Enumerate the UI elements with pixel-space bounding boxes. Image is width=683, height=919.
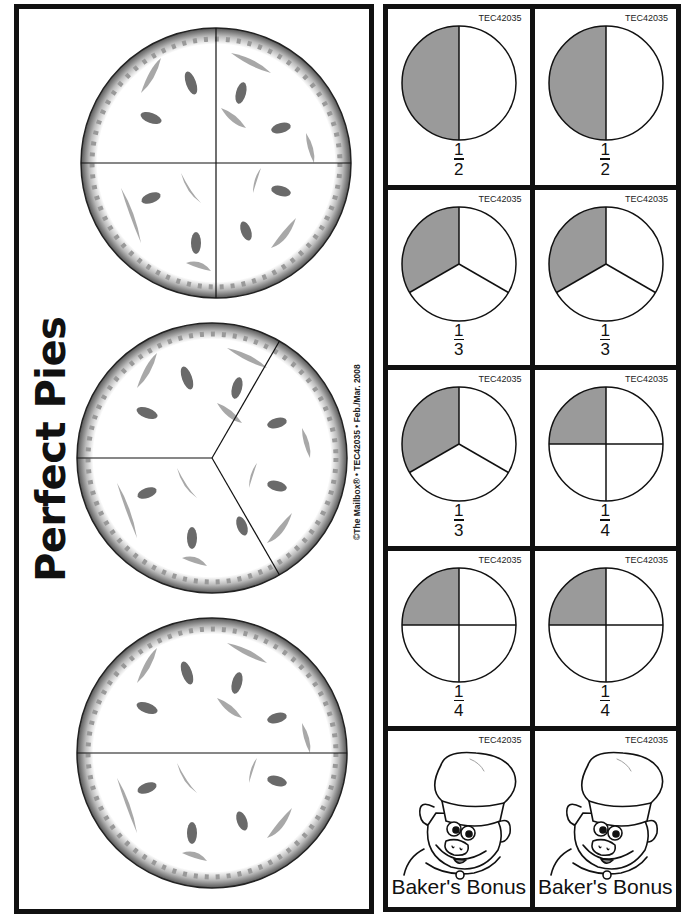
fraction-card-one-fourth[interactable]: TEC42035 14 xyxy=(388,551,530,727)
big-pie-thirds[interactable] xyxy=(71,317,353,599)
pig-chef-icon xyxy=(396,745,526,880)
fraction-label: 13 xyxy=(388,503,530,538)
card-code: TEC42035 xyxy=(478,374,521,384)
copyright-credit: ©The Mailbox® • TEC42035 • Feb./Mar. 200… xyxy=(352,364,362,540)
fraction-card-one-half[interactable]: TEC42035 12 xyxy=(388,9,530,185)
card-code: TEC42035 xyxy=(625,735,668,745)
bakers-bonus-card[interactable]: TEC42035 Baker's Bonus xyxy=(388,731,530,907)
fraction-label: 12 xyxy=(535,142,677,177)
fraction-card-one-fourth[interactable]: TEC42035 14 xyxy=(535,370,677,546)
fraction-label: 13 xyxy=(388,323,530,358)
half-shaded-circle-icon xyxy=(400,24,518,142)
bakers-bonus-label: Baker's Bonus xyxy=(535,875,677,899)
third-shaded-circle-icon xyxy=(400,385,518,503)
card-code: TEC42035 xyxy=(478,194,521,204)
card-code: TEC42035 xyxy=(625,194,668,204)
card-code: TEC42035 xyxy=(625,374,668,384)
big-pie-halves[interactable] xyxy=(71,612,353,894)
card-code: TEC42035 xyxy=(478,555,521,565)
quarter-shaded-circle-icon xyxy=(547,566,665,684)
half-shaded-circle-icon xyxy=(547,24,665,142)
fraction-label: 12 xyxy=(388,142,530,177)
big-pie-fourths[interactable] xyxy=(75,22,357,304)
card-code: TEC42035 xyxy=(478,735,521,745)
fraction-card-one-third[interactable]: TEC42035 13 xyxy=(388,370,530,546)
fraction-label: 14 xyxy=(535,684,677,719)
third-shaded-circle-icon xyxy=(547,205,665,323)
fraction-label: 14 xyxy=(388,684,530,719)
fraction-card-one-third[interactable]: TEC42035 13 xyxy=(535,190,677,366)
bakers-bonus-label: Baker's Bonus xyxy=(388,875,530,899)
fraction-label: 14 xyxy=(535,503,677,538)
card-code: TEC42035 xyxy=(625,13,668,23)
fraction-card-grid: TEC42035 12 TEC42035 12 TEC42035 xyxy=(383,4,681,912)
card-code: TEC42035 xyxy=(625,555,668,565)
quarter-shaded-circle-icon xyxy=(400,566,518,684)
third-shaded-circle-icon xyxy=(400,205,518,323)
pig-chef-icon xyxy=(543,745,673,880)
fraction-card-one-fourth[interactable]: TEC42035 14 xyxy=(535,551,677,727)
page-title: Perfect Pies xyxy=(29,317,73,582)
fraction-card-one-third[interactable]: TEC42035 13 xyxy=(388,190,530,366)
bakers-bonus-card[interactable]: TEC42035 Baker's Bonus xyxy=(535,731,677,907)
quarter-shaded-circle-icon xyxy=(547,385,665,503)
card-code: TEC42035 xyxy=(478,13,521,23)
fraction-label: 13 xyxy=(535,323,677,358)
fraction-card-one-half[interactable]: TEC42035 12 xyxy=(535,9,677,185)
